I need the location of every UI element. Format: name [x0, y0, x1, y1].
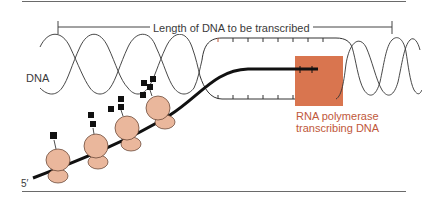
ribosome-2 [84, 112, 108, 169]
ribosome-1 [46, 132, 70, 183]
dna-helix-left [40, 34, 202, 94]
length-label: Length of DNA to be transcribed [150, 22, 313, 34]
dna-label: DNA [26, 72, 49, 84]
dna-helix-right [336, 38, 422, 99]
mrna-strand [33, 69, 318, 178]
rna-polymerase [295, 56, 343, 106]
polymerase-label-line1: RNA polymerase [296, 110, 379, 122]
ribosome-4 [140, 76, 175, 129]
five-prime-label: 5′ [21, 178, 28, 189]
polymerase-label: RNA polymerase transcribing DNA [296, 110, 379, 134]
bottom-rule [22, 191, 406, 192]
polymerase-label-line2: transcribing DNA [296, 122, 379, 134]
bubble-ticks-top [218, 38, 323, 42]
ribosome-3 [108, 96, 141, 151]
